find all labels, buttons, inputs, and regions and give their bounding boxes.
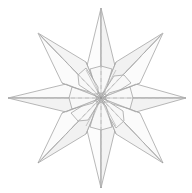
- star-figure-container: Eight-pointed star polygon Line-art geom…: [0, 0, 192, 193]
- star-diagram: Eight-pointed star polygon Line-art geom…: [0, 0, 192, 193]
- center-point: [100, 97, 102, 99]
